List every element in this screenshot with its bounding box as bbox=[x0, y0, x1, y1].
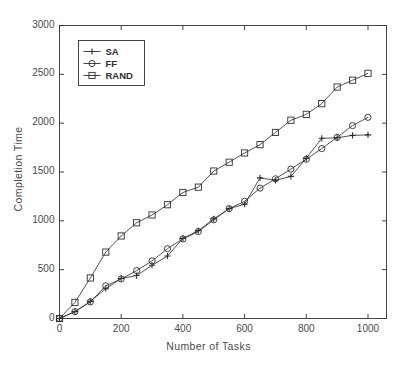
x-tick-label: 400 bbox=[153, 323, 213, 334]
completion-time-line-chart bbox=[0, 0, 417, 369]
legend-label-sa: SA bbox=[106, 46, 119, 57]
y-tick-label: 2500 bbox=[0, 67, 55, 78]
data-point-sa bbox=[365, 132, 371, 138]
series-line-rand bbox=[60, 73, 368, 318]
y-axis-label-wrapper: Completion Time bbox=[8, 94, 26, 244]
y-tick-label: 500 bbox=[0, 263, 55, 274]
data-point-ff bbox=[365, 114, 371, 120]
legend-label-ff: FF bbox=[106, 58, 118, 69]
x-axis-label: Number of Tasks bbox=[0, 340, 417, 352]
data-point-rand bbox=[365, 70, 371, 76]
x-tick-label: 800 bbox=[276, 323, 336, 334]
x-tick-label: 200 bbox=[91, 323, 151, 334]
x-tick-label: 0 bbox=[30, 323, 90, 334]
chart-figure: 0200400600800100005001000150020002500300… bbox=[0, 0, 417, 369]
y-tick-label: 3000 bbox=[0, 19, 55, 30]
data-point-sa bbox=[349, 132, 355, 138]
x-tick-label: 600 bbox=[215, 323, 275, 334]
data-point-sa bbox=[257, 175, 263, 181]
y-tick-label: 0 bbox=[0, 312, 55, 323]
series-layer bbox=[56, 70, 371, 321]
x-tick-label: 1000 bbox=[338, 323, 398, 334]
legend-label-rand: RAND bbox=[106, 70, 133, 81]
y-axis-label: Completion Time bbox=[12, 127, 24, 212]
series-sa bbox=[56, 132, 371, 322]
